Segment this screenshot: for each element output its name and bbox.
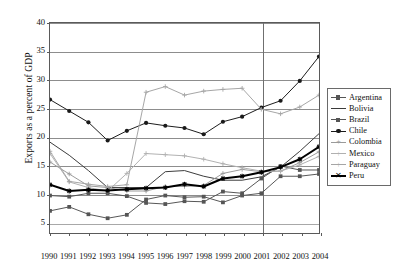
data-point	[202, 195, 206, 199]
data-point	[279, 174, 283, 178]
legend-marker-icon: +	[335, 139, 341, 145]
series-argentina	[50, 172, 319, 220]
data-point	[221, 190, 225, 194]
legend-swatch-icon: +	[331, 137, 346, 148]
x-tick-mark	[186, 233, 187, 236]
legend-label: Peru	[349, 171, 364, 181]
x-tick-mark	[321, 233, 322, 236]
data-point	[50, 209, 52, 213]
legend-item-peru[interactable]: ✕Peru	[331, 170, 388, 181]
y-tick-label: 20	[23, 132, 45, 140]
data-point	[317, 172, 319, 176]
x-tick-mark	[127, 233, 128, 236]
data-point	[182, 126, 186, 130]
y-tick-label: 25	[23, 104, 45, 112]
legend-swatch-icon: ✕	[331, 170, 346, 181]
data-point	[163, 124, 167, 128]
data-point	[106, 216, 110, 220]
x-tick-mark	[205, 233, 206, 236]
data-point	[298, 79, 302, 83]
legend-label: Paraguay	[349, 160, 380, 170]
data-point	[240, 115, 244, 119]
series-lines	[50, 23, 319, 233]
series-bolivia	[50, 134, 319, 188]
legend-label: Mexico	[349, 149, 374, 159]
plot-area	[49, 22, 320, 234]
legend-marker-icon: +	[335, 151, 341, 157]
data-point	[259, 191, 263, 195]
data-point	[67, 205, 71, 209]
y-tick-label: 5	[23, 218, 45, 226]
legend-item-bolivia[interactable]: Bolivia	[331, 103, 388, 114]
data-point	[67, 195, 71, 199]
legend-label: Brazil	[349, 115, 369, 125]
data-point	[144, 121, 148, 125]
x-tick-mark	[89, 233, 90, 236]
chart-legend: ArgentinaBoliviaBrazilChile+Colombia+Mex…	[327, 88, 391, 186]
x-tick-mark	[108, 233, 109, 236]
data-point	[183, 195, 187, 199]
data-point	[125, 213, 129, 217]
x-tick-mark	[244, 233, 245, 236]
x-tick-mark	[302, 233, 303, 236]
chart-figure: Exports as a percent of GDP 510152025303…	[0, 0, 395, 267]
data-point	[87, 212, 91, 216]
data-point	[86, 120, 90, 124]
legend-item-colombia[interactable]: +Colombia	[331, 137, 388, 148]
legend-marker-icon	[336, 95, 340, 99]
data-point	[278, 99, 282, 103]
y-tick-label: 35	[23, 46, 45, 54]
data-point	[259, 177, 263, 181]
data-point	[202, 200, 206, 204]
x-axis-tick-labels: 1990199119921993199419951996199719981999…	[49, 243, 320, 259]
x-tick-label: 2004	[305, 252, 335, 261]
data-point	[50, 194, 52, 198]
data-point	[183, 199, 187, 203]
legend-item-argentina[interactable]: Argentina	[331, 92, 388, 103]
legend-label: Bolivia	[349, 104, 373, 114]
x-tick-mark	[166, 233, 167, 236]
data-point	[163, 202, 167, 206]
data-point	[298, 174, 302, 178]
y-axis-tick-labels: 510152025303540	[20, 0, 45, 267]
data-point	[221, 120, 225, 124]
legend-label: Argentina	[349, 93, 382, 103]
data-point	[163, 194, 167, 198]
legend-swatch-icon: +	[331, 159, 346, 170]
legend-marker-icon	[336, 129, 341, 134]
x-tick-mark	[282, 233, 283, 236]
legend-swatch-icon	[331, 103, 346, 114]
y-tick-label: 30	[23, 75, 45, 83]
legend-marker-icon: ✕	[335, 173, 341, 179]
legend-label: Chile	[349, 126, 367, 136]
legend-item-chile[interactable]: Chile	[331, 126, 388, 137]
data-point	[221, 200, 225, 204]
legend-swatch-icon	[331, 92, 346, 103]
legend-swatch-icon	[331, 114, 346, 125]
x-tick-mark	[263, 233, 264, 236]
legend-marker-icon: +	[335, 162, 341, 168]
series-line	[50, 134, 319, 188]
legend-label: Colombia	[349, 137, 382, 147]
legend-item-mexico[interactable]: +Mexico	[331, 148, 388, 159]
data-point	[67, 109, 71, 113]
y-tick-label: 15	[23, 161, 45, 169]
data-point	[298, 168, 302, 172]
data-point	[202, 132, 206, 136]
y-tick-label: 40	[23, 18, 45, 26]
data-point	[106, 138, 110, 142]
legend-swatch-icon: +	[331, 148, 346, 159]
data-point	[240, 191, 244, 195]
legend-swatch-icon	[331, 126, 346, 137]
legend-item-brazil[interactable]: Brazil	[331, 114, 388, 125]
series-chile	[50, 54, 319, 142]
x-tick-mark	[147, 233, 148, 236]
data-point	[125, 129, 129, 133]
data-point	[144, 198, 148, 202]
data-point	[125, 194, 129, 198]
data-point	[144, 201, 148, 205]
x-tick-mark	[224, 233, 225, 236]
y-tick-label: 10	[23, 190, 45, 198]
legend-item-paraguay[interactable]: +Paraguay	[331, 159, 388, 170]
x-tick-mark	[69, 233, 70, 236]
